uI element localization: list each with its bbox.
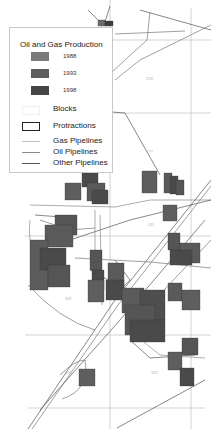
map-legend: Oil and Gas Production 1988 1993 1998 Bl… — [9, 27, 113, 173]
blocks-label: Blocks — [53, 104, 77, 113]
swatch-1988 — [31, 52, 49, 61]
oil-pipelines-label: Oil Pipelines — [53, 147, 97, 156]
protractions-label: Protractions — [53, 121, 96, 130]
swatch-label-1998: 1998 — [63, 87, 76, 93]
blocks-symbol — [22, 106, 40, 115]
svg-text:332: 332 — [151, 370, 158, 375]
other-pipelines-label: Other Pipelines — [53, 158, 108, 167]
svg-text:331: 331 — [65, 296, 72, 301]
other-pipeline-symbol — [22, 163, 40, 164]
swatch-label-1988: 1988 — [63, 53, 76, 59]
svg-text:111: 111 — [148, 222, 155, 227]
oil-pipeline-symbol — [22, 152, 40, 153]
gas-pipelines-label: Gas Pipelines — [53, 136, 102, 145]
svg-text:???: ??? — [146, 149, 153, 154]
svg-text:233: 233 — [146, 76, 153, 81]
protractions-symbol — [22, 122, 40, 131]
svg-text:301: 301 — [65, 370, 72, 375]
gas-pipeline-symbol — [22, 141, 40, 142]
legend-title: Oil and Gas Production — [20, 40, 103, 49]
swatch-1998 — [31, 86, 49, 95]
swatch-label-1993: 1993 — [63, 70, 76, 76]
swatch-1993 — [31, 69, 49, 78]
